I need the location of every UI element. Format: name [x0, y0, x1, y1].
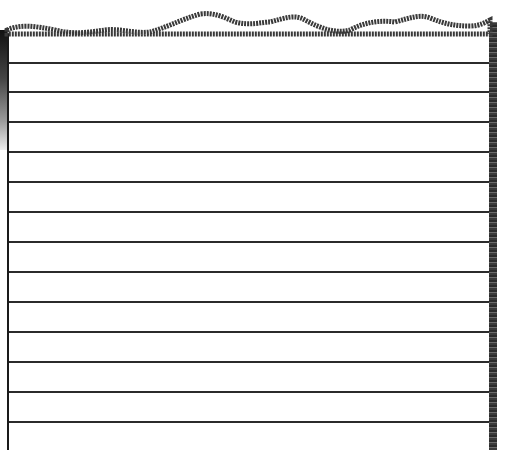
ruled-line: [9, 421, 489, 423]
ruled-line: [9, 91, 489, 93]
ruled-line: [9, 211, 489, 213]
ruled-line: [9, 361, 489, 363]
paper-body: [7, 28, 491, 450]
ruled-line: [9, 181, 489, 183]
left-shadow: [0, 30, 7, 150]
paper-right-edge: [489, 22, 497, 450]
ruled-line: [9, 331, 489, 333]
ruled-line: [9, 301, 489, 303]
ruled-line: [9, 391, 489, 393]
ruled-line: [9, 241, 489, 243]
ruled-line: [9, 151, 489, 153]
ruled-line: [9, 271, 489, 273]
ruled-line: [9, 62, 489, 64]
torn-top-edge: [0, 0, 520, 40]
lined-paper: [7, 0, 490, 450]
ruled-line: [9, 121, 489, 123]
